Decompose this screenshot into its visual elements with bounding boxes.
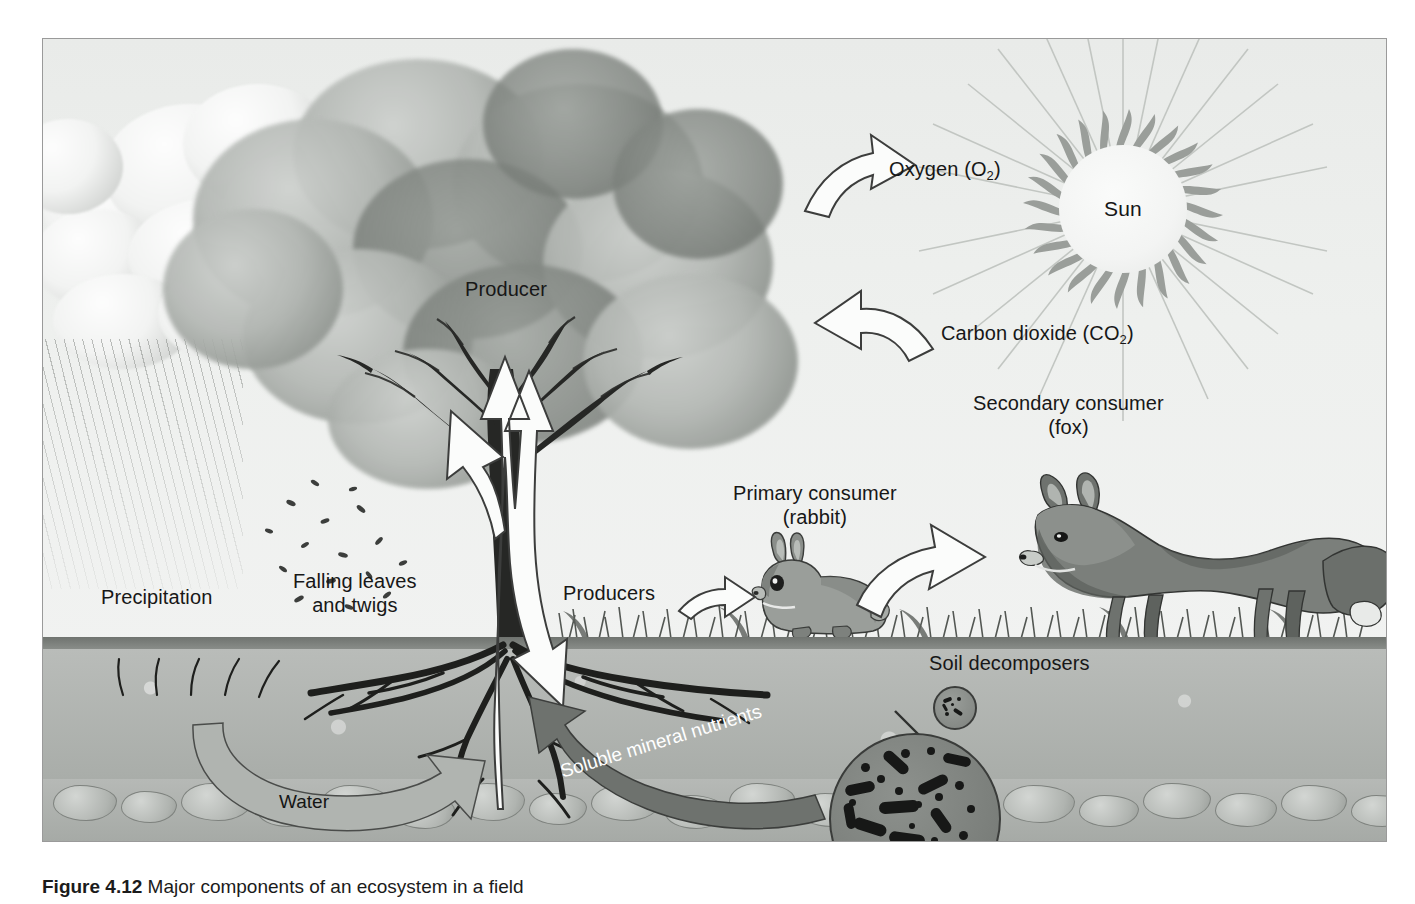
figure-frame: Sun — [42, 38, 1387, 842]
soil-decomposers-magnifier — [933, 686, 977, 730]
secondary-consumer-line1: Secondary consumer — [973, 391, 1164, 415]
water-label: Water — [279, 791, 329, 813]
oxygen-label: Oxygen (O2) — [889, 157, 1001, 183]
carbon-dioxide-subscript: 2 — [1120, 332, 1127, 347]
producers-label: Producers — [563, 581, 655, 605]
figure-caption-label: Figure 4.12 — [42, 876, 142, 897]
figure-caption: Figure 4.12 Major components of an ecosy… — [42, 876, 1242, 898]
oxygen-label-close: ) — [994, 158, 1001, 180]
carbon-dioxide-label-text: Carbon dioxide (CO — [941, 322, 1120, 344]
falling-leaves-label: Falling leaves and twigs — [293, 569, 417, 618]
sun-disc: Sun — [1059, 145, 1187, 273]
primary-consumer-label: Primary consumer (rabbit) — [733, 481, 897, 530]
primary-consumer-line2: (rabbit) — [733, 505, 897, 529]
producer-label: Producer — [465, 277, 547, 301]
precipitation-label: Precipitation — [101, 585, 212, 609]
carbon-dioxide-label: Carbon dioxide (CO2) — [941, 321, 1134, 347]
falling-leaves-line1: Falling leaves — [293, 569, 417, 593]
secondary-consumer-label: Secondary consumer (fox) — [973, 391, 1164, 440]
sun-label: Sun — [1104, 197, 1142, 221]
carbon-dioxide-label-close: ) — [1127, 322, 1134, 344]
oxygen-subscript: 2 — [987, 168, 994, 183]
secondary-consumer-line2: (fox) — [973, 415, 1164, 439]
falling-leaves-line2: and twigs — [293, 593, 417, 617]
oxygen-label-text: Oxygen (O — [889, 158, 987, 180]
primary-consumer-line1: Primary consumer — [733, 481, 897, 505]
soil-decomposers-label: Soil decomposers — [929, 651, 1090, 675]
figure-caption-text: Major components of an ecosystem in a fi… — [148, 876, 524, 897]
